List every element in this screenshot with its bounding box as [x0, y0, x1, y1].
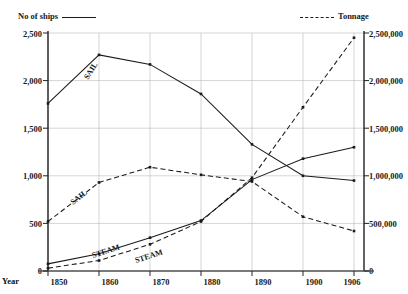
series-label-steam-tonnage: STEAM [134, 247, 164, 264]
series-label-sail-tonnage: SAIL [69, 188, 89, 207]
series-label-steam-ships: STEAM [91, 242, 121, 259]
series-label-sail-ships: SAIL [82, 60, 100, 81]
ships-tonnage-chart: No of ships Tonnage 2,500 2,000 1,500 1,… [0, 0, 408, 294]
plot-area: SAILSAILSTEAMSTEAM [0, 0, 408, 294]
